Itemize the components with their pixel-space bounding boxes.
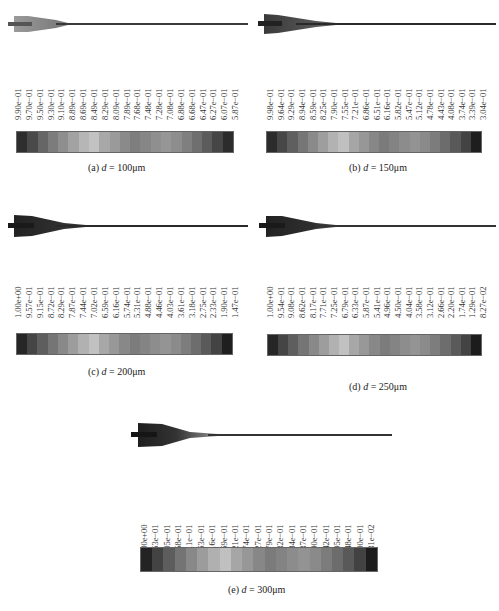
colorbar-segment xyxy=(109,334,119,354)
colorbar-tick-label: 4.96e−01 xyxy=(383,258,392,318)
colorbar-segment xyxy=(223,132,233,152)
caption-value: = 300μm xyxy=(247,584,286,595)
caption-prefix: (c) xyxy=(88,366,102,377)
colorbar-c xyxy=(16,333,233,355)
colorbar-segment xyxy=(202,132,212,152)
colorbar-e xyxy=(140,547,378,572)
colorbar-tick-label: 9.08e−01 xyxy=(287,258,296,318)
colorbar-tick-label: 6.07e−01 xyxy=(220,80,229,120)
colorbar-segment xyxy=(181,334,191,354)
colorbar-segment xyxy=(211,334,221,354)
colorbar-tick-label: 4.88e−01 xyxy=(144,258,153,318)
colorbar-segment xyxy=(222,334,232,354)
colorbar-tick-label: 7.55e−01 xyxy=(341,80,350,120)
colorbar-segment xyxy=(192,132,202,152)
colorbar-tick-label: 8.25e−01 xyxy=(319,80,328,120)
colorbar-segment xyxy=(160,334,170,354)
colorbar-segment xyxy=(471,335,481,355)
colorbar-tick-label: 4.03e−01 xyxy=(166,258,175,318)
colorbar-segment xyxy=(99,334,109,354)
colorbar-segment xyxy=(310,548,321,571)
colorbar-tick-label: 3.04e−01 xyxy=(479,80,488,120)
colorbar-tick-label: 7.25e−01 xyxy=(330,258,339,318)
colorbar-segment xyxy=(17,334,27,354)
colorbar-segment xyxy=(366,548,377,571)
colorbar-tick-label: 4.08e−01 xyxy=(447,80,456,120)
jet-contour-d xyxy=(256,211,496,241)
colorbar-tick-label: 8.69e−01 xyxy=(79,80,88,120)
colorbar-segment xyxy=(308,132,318,152)
colorbar-tick-label: 1.74e−01 xyxy=(458,258,467,318)
colorbar-tick-label: 8.27e−02 xyxy=(479,258,488,318)
colorbar-tick-label: 4.04e−01 xyxy=(405,258,414,318)
colorbar-tick-label: 7.21e−01 xyxy=(351,80,360,120)
caption-prefix: (b) xyxy=(349,162,363,173)
colorbar-segment xyxy=(349,335,359,355)
colorbar-segment xyxy=(182,132,192,152)
colorbar-tick-label: 4.50e−01 xyxy=(394,258,403,318)
colorbar-segment xyxy=(450,132,460,152)
colorbar-tick-label: 9.10e−01 xyxy=(57,80,66,120)
colorbar-segment xyxy=(171,132,181,152)
colorbar-tick-label: 9.50e−01 xyxy=(36,80,45,120)
colorbar-segment xyxy=(390,335,400,355)
colorbar-segment xyxy=(268,335,278,355)
colorbar-tick-label: 6.79e−01 xyxy=(341,258,350,318)
colorbar-segment xyxy=(461,335,471,355)
colorbar-segment xyxy=(440,335,450,355)
colorbar-segment xyxy=(400,335,410,355)
colorbar-tick-label: 8.94e−01 xyxy=(298,80,307,120)
colorbar-segment xyxy=(410,335,420,355)
colorbar-tick-label: 8.09e−01 xyxy=(112,80,121,120)
colorbar-labels-c: 1.00e+009.57e−019.15e−018.72e−018.29e−01… xyxy=(14,258,240,318)
colorbar-tick-label: 1.47e−01 xyxy=(231,258,240,318)
colorbar-tick-label: 5.12e−01 xyxy=(415,80,424,120)
colorbar-tick-label: 9.15e−01 xyxy=(36,258,45,318)
colorbar-segment xyxy=(99,132,109,152)
colorbar-labels-d: 1.00e+009.54e−019.08e−018.62e−018.17e−01… xyxy=(266,258,488,318)
colorbar-tick-label: 1.00e+00 xyxy=(266,258,275,318)
colorbar-tick-label: 9.64e−01 xyxy=(277,80,286,120)
colorbar-tick-label: 5.87e−01 xyxy=(231,80,240,120)
colorbar-segment xyxy=(212,132,222,152)
colorbar-tick-label: 5.31e−01 xyxy=(133,258,142,318)
colorbar-tick-label: 3.39e−01 xyxy=(468,80,477,120)
colorbar-segment xyxy=(186,548,197,571)
colorbar-tick-label: 7.68e−01 xyxy=(133,80,142,120)
colorbar-segment xyxy=(150,334,160,354)
colorbar-tick-label: 1.00e+00 xyxy=(14,258,23,318)
colorbar-segment xyxy=(278,335,288,355)
colorbar-segment xyxy=(399,132,409,152)
colorbar-tick-label: 3.18e−01 xyxy=(188,258,197,318)
colorbar-tick-label: 2.75e−01 xyxy=(199,258,208,318)
colorbar-segment xyxy=(152,548,163,571)
colorbar-tick-label: 1.90e−01 xyxy=(220,258,229,318)
colorbar-segment xyxy=(58,334,68,354)
colorbar-segment xyxy=(359,132,369,152)
colorbar-segment xyxy=(298,548,309,571)
colorbar-tick-label: 6.86e−01 xyxy=(362,80,371,120)
colorbar-segment xyxy=(89,132,99,152)
colorbar-segment xyxy=(359,335,369,355)
colorbar-segment xyxy=(78,334,88,354)
colorbar-segment xyxy=(319,335,329,355)
colorbar-tick-label: 7.71e−01 xyxy=(319,258,328,318)
colorbar-segment xyxy=(89,334,99,354)
colorbar-tick-label: 7.87e−01 xyxy=(68,258,77,318)
colorbar-segment xyxy=(27,132,37,152)
colorbar-segment xyxy=(130,334,140,354)
colorbar-tick-label: 5.47e−01 xyxy=(405,80,414,120)
colorbar-segment xyxy=(369,132,379,152)
caption-b: (b) d = 150μm xyxy=(349,162,407,173)
colorbar-tick-label: 6.16e−01 xyxy=(112,258,121,318)
colorbar-segment xyxy=(420,335,430,355)
colorbar-segment xyxy=(197,548,208,571)
colorbar-segment xyxy=(430,132,440,152)
colorbar-segment xyxy=(277,132,287,152)
colorbar-segment xyxy=(140,334,150,354)
caption-value: = 150μm xyxy=(368,162,407,173)
colorbar-segment xyxy=(328,132,338,152)
caption-d: (d) d = 250μm xyxy=(349,381,407,392)
colorbar-segment xyxy=(231,548,242,571)
colorbar-tick-label: 7.28e−01 xyxy=(155,80,164,120)
